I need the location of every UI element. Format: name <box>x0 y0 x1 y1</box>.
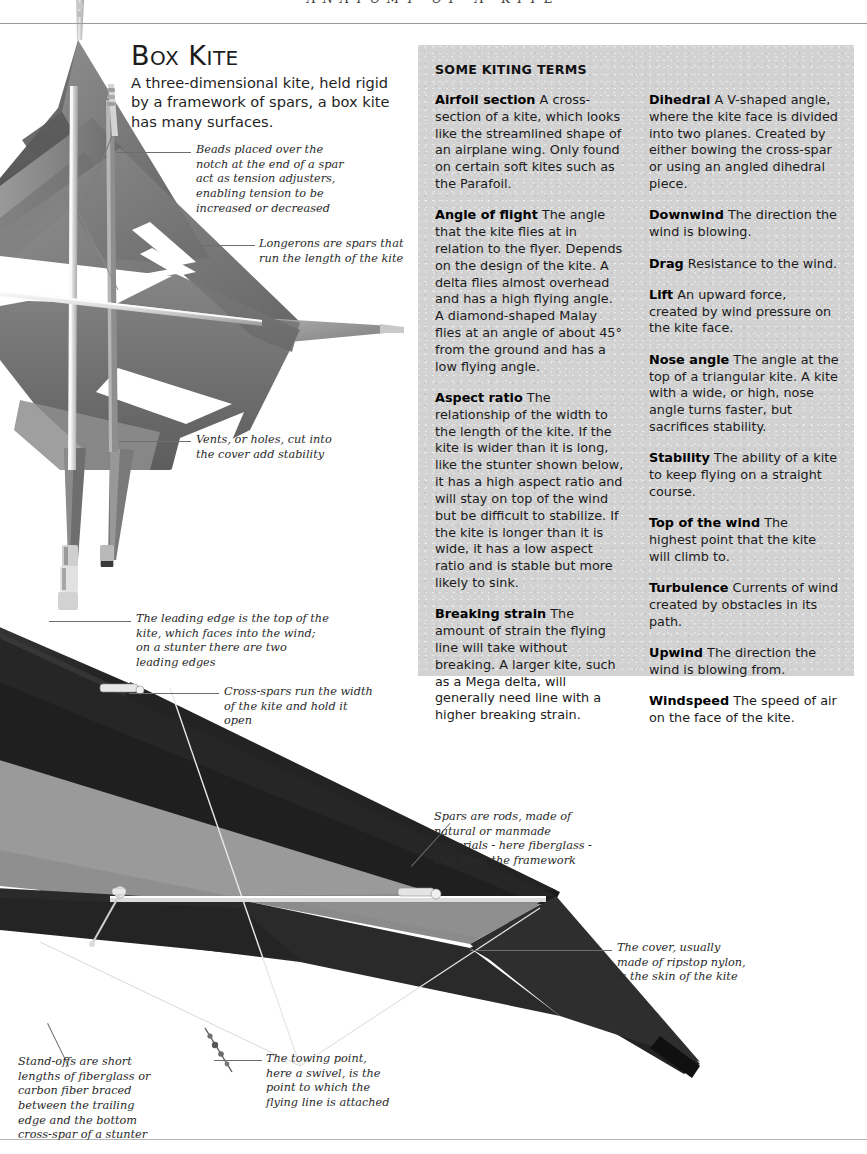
term-entry: Stability The ability of a kite to keep … <box>649 450 839 500</box>
terms-column-left: Airfoil section A cross-section of a kit… <box>435 92 625 741</box>
callout-longerons: Longerons are spars that run the length … <box>259 237 409 266</box>
term-definition: The amount of strain the flying line wil… <box>435 606 616 722</box>
callout-towing-point: The towing point, here a swivel, is the … <box>266 1052 391 1111</box>
term-entry: Dihedral A V-shaped angle, where the kit… <box>649 92 839 193</box>
term-name: Dihedral <box>649 92 710 107</box>
page-root: ANATOMY OF A KITE BOX KITE A three-dimen… <box>0 0 867 1154</box>
stunter-towing-swivel <box>205 1028 232 1072</box>
callout-stand-offs: Stand-offs are short lengths of fibergla… <box>18 1055 160 1143</box>
stunter-cross-spar <box>110 896 546 902</box>
term-name: Nose angle <box>649 352 729 367</box>
term-entry: Lift An upward force, created by wind pr… <box>649 287 839 337</box>
term-entry: Downwind The direction the wind is blowi… <box>649 207 839 241</box>
term-entry: Nose angle The angle at the top of a tri… <box>649 352 839 436</box>
callout-leading-edge: The leading edge is the top of the kite,… <box>136 612 332 671</box>
term-entry: Upwind The direction the wind is blowing… <box>649 645 839 679</box>
term-definition: An upward force, created by wind pressur… <box>649 287 831 336</box>
term-name: Upwind <box>649 645 703 660</box>
leader-line-cover <box>470 950 612 951</box>
term-name: Angle of flight <box>435 207 538 222</box>
box-kite-legs <box>58 448 134 610</box>
term-entry: Windspeed The speed of air on the face o… <box>649 693 839 727</box>
callout-vents: Vents, or holes, cut into the cover add … <box>196 433 341 462</box>
terms-panel-heading: SOME KITING TERMS <box>435 62 587 77</box>
term-entry: Airfoil section A cross-section of a kit… <box>435 92 625 193</box>
term-name: Aspect ratio <box>435 390 523 405</box>
term-entry: Angle of flight The angle that the kite … <box>435 207 625 375</box>
callout-spars: Spars are rods, made of natural or manma… <box>434 810 602 869</box>
term-name: Drag <box>649 256 684 271</box>
term-entry: Drag Resistance to the wind. <box>649 256 839 273</box>
terms-column-right: Dihedral A V-shaped angle, where the kit… <box>649 92 839 741</box>
leader-line-longerons <box>197 245 255 246</box>
leader-line-cross-spars <box>129 693 219 694</box>
kiting-terms-panel: SOME KITING TERMS Airfoil section A cros… <box>418 45 854 676</box>
leader-line-beads <box>117 152 191 153</box>
stunter-bridle-left <box>40 942 300 1066</box>
term-definition: The angle that the kite flies at in rela… <box>435 207 622 373</box>
top-rule <box>0 23 867 24</box>
term-name: Windspeed <box>649 693 729 708</box>
term-name: Turbulence <box>649 580 728 595</box>
term-definition: The relationship of the width to the len… <box>435 390 623 590</box>
callout-beads: Beads placed over the notch at the end o… <box>196 143 346 216</box>
box-kite-top-mast <box>76 0 84 40</box>
term-entry: Breaking strain The amount of strain the… <box>435 606 625 724</box>
page-title: BOX KITE <box>131 42 391 69</box>
leader-line-vents <box>119 441 191 442</box>
term-definition: Resistance to the wind. <box>688 256 837 271</box>
callout-cross-spars: Cross-spars run the width of the kite an… <box>224 685 374 729</box>
running-head: ANATOMY OF A KITE <box>0 0 867 6</box>
term-name: Downwind <box>649 207 724 222</box>
term-entry: Aspect ratio The relationship of the wid… <box>435 390 625 592</box>
terms-columns: Airfoil section A cross-section of a kit… <box>435 92 839 741</box>
term-entry: Turbulence Currents of wind created by o… <box>649 580 839 630</box>
title-block: BOX KITE A three-dimensional kite, held … <box>131 42 391 131</box>
page-subtitle: A three-dimensional kite, held rigid by … <box>131 73 391 131</box>
leader-line-leading-edge <box>49 621 131 622</box>
term-name: Top of the wind <box>649 515 760 530</box>
term-name: Airfoil section <box>435 92 535 107</box>
term-entry: Top of the wind The highest point that t… <box>649 515 839 565</box>
leader-line-towing-point <box>214 1060 262 1061</box>
callout-cover: The cover, usually made of ripstop nylon… <box>617 941 749 985</box>
term-name: Lift <box>649 287 673 302</box>
term-name: Breaking strain <box>435 606 546 621</box>
term-name: Stability <box>649 450 710 465</box>
